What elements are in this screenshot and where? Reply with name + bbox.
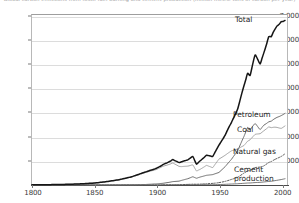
x-tick-mark <box>157 185 158 188</box>
x-tick-label: 1900 <box>149 189 166 197</box>
x-tick-label: 1950 <box>211 189 228 197</box>
x-tick-mark <box>95 185 96 188</box>
x-tick-label: 2000 <box>274 189 291 197</box>
series-label-total: Total <box>235 16 252 25</box>
series-label-natural-gas: Natural gas <box>233 148 276 157</box>
x-tick-mark <box>283 185 284 188</box>
x-tick-mark <box>220 185 221 188</box>
series-label-cement-line2: production <box>234 175 274 184</box>
x-tick-label: 1800 <box>24 189 41 197</box>
series-total <box>32 20 285 184</box>
emissions-chart: Global carbon emissions from fossil-fuel… <box>0 0 299 203</box>
series-label-petroleum: Petroleum <box>233 111 271 120</box>
x-tick-label: 1850 <box>86 189 103 197</box>
series-label-coal: Coal <box>237 126 253 135</box>
x-tick-mark <box>32 185 33 188</box>
